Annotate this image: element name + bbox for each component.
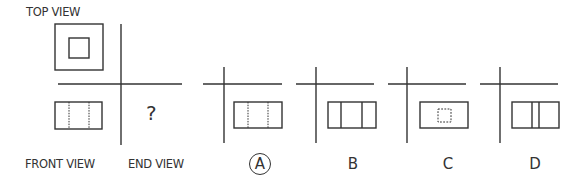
option-c-drawing[interactable] xyxy=(388,67,468,143)
option-d-label[interactable]: D xyxy=(523,155,547,173)
option-a-label-selected[interactable]: A xyxy=(249,153,271,175)
unknown-end-view-marker: ? xyxy=(146,102,157,124)
top-view-label: TOP VIEW xyxy=(26,5,80,19)
option-c-hidden-square xyxy=(438,109,451,122)
option-c-rectangle xyxy=(420,102,468,128)
option-b-rectangle xyxy=(328,102,376,128)
top-view-inner-square xyxy=(69,38,89,58)
top-view-drawing xyxy=(55,24,103,70)
end-view-label: END VIEW xyxy=(128,157,184,171)
option-b-drawing[interactable] xyxy=(296,67,376,143)
option-d-drawing[interactable] xyxy=(480,67,559,143)
front-view-drawing xyxy=(55,102,102,129)
orthographic-diagram: TOP VIEW FRONT VIEW END VIEW ? A B C D xyxy=(0,0,583,194)
front-view-rectangle xyxy=(55,102,102,129)
front-view-label: FRONT VIEW xyxy=(25,157,95,171)
option-c-label[interactable]: C xyxy=(436,155,460,173)
main-projection-axes xyxy=(58,24,182,145)
top-view-outer-square xyxy=(55,24,103,70)
option-a-drawing[interactable] xyxy=(203,67,282,143)
option-b-label[interactable]: B xyxy=(341,155,365,173)
option-a-rectangle xyxy=(234,102,282,128)
option-d-rectangle xyxy=(512,102,559,128)
